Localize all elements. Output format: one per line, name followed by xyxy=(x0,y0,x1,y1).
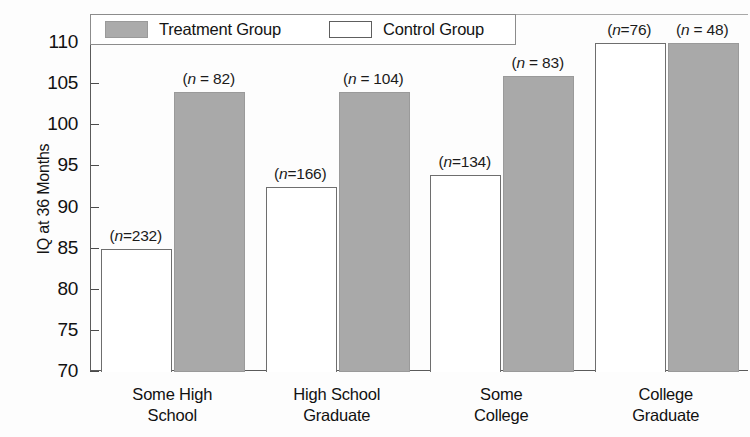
x-axis-label-line1: Some High xyxy=(90,384,255,405)
plot-inner xyxy=(91,15,749,372)
legend-swatch-control-icon xyxy=(329,21,372,38)
y-axis-tick-label: 95 xyxy=(32,155,78,174)
n-label-treatment-4: (n = 48) xyxy=(661,21,744,39)
y-axis-tick-label: 80 xyxy=(32,279,78,298)
x-axis-label-3: SomeCollege xyxy=(419,384,584,426)
legend-label: Treatment Group xyxy=(159,20,281,39)
n-label-control-4: (n=76) xyxy=(590,21,669,39)
y-axis-tick-label: 105 xyxy=(32,73,78,92)
y-axis-tick-label: 70 xyxy=(32,361,78,380)
bar-treatment-3[interactable] xyxy=(503,76,574,372)
n-label-control-2: (n=166) xyxy=(261,165,340,183)
n-label-treatment-2: (n = 104) xyxy=(332,70,415,88)
bar-control-1[interactable] xyxy=(101,249,172,372)
x-axis-label-4: CollegeGraduate xyxy=(584,384,749,426)
y-axis-tick-label: 100 xyxy=(32,114,78,133)
y-axis-tick-label: 90 xyxy=(32,197,78,216)
x-axis-label-2: High SchoolGraduate xyxy=(255,384,420,426)
bar-control-4[interactable] xyxy=(595,43,666,372)
x-axis-label-line1: College xyxy=(584,384,749,405)
x-axis-label-line2: College xyxy=(419,405,584,426)
bar-treatment-2[interactable] xyxy=(339,92,410,372)
bar-chart-figure: IQ at 36 Months 110105100959085807570 (n… xyxy=(0,0,750,437)
x-axis-label-line2: Graduate xyxy=(584,405,749,426)
chart-legend: Treatment GroupControl Group xyxy=(90,14,516,45)
y-axis-tick-labels: 110105100959085807570 xyxy=(18,0,78,437)
bar-control-3[interactable] xyxy=(430,175,501,372)
legend-entry-control[interactable]: Control Group xyxy=(329,20,484,39)
x-axis-label-line2: Graduate xyxy=(255,405,420,426)
bar-treatment-1[interactable] xyxy=(174,92,245,372)
n-label-treatment-1: (n = 82) xyxy=(167,70,250,88)
n-label-control-3: (n=134) xyxy=(425,153,504,171)
x-axis-label-line2: School xyxy=(90,405,255,426)
y-axis-tick-label: 110 xyxy=(32,32,78,51)
x-axis-label-1: Some HighSchool xyxy=(90,384,255,426)
legend-label: Control Group xyxy=(383,20,484,39)
legend-entry-treatment[interactable]: Treatment Group xyxy=(105,20,281,39)
x-axis-label-line1: High School xyxy=(255,384,420,405)
bar-control-2[interactable] xyxy=(266,187,337,372)
n-label-treatment-3: (n = 83) xyxy=(496,54,579,72)
bar-treatment-4[interactable] xyxy=(668,43,739,372)
y-axis-tick-label: 85 xyxy=(32,238,78,257)
y-axis-tick-label: 75 xyxy=(32,320,78,339)
x-axis-label-line1: Some xyxy=(419,384,584,405)
legend-swatch-treatment-icon xyxy=(105,21,148,38)
plot-area xyxy=(90,14,748,371)
n-label-control-1: (n=232) xyxy=(96,227,175,245)
